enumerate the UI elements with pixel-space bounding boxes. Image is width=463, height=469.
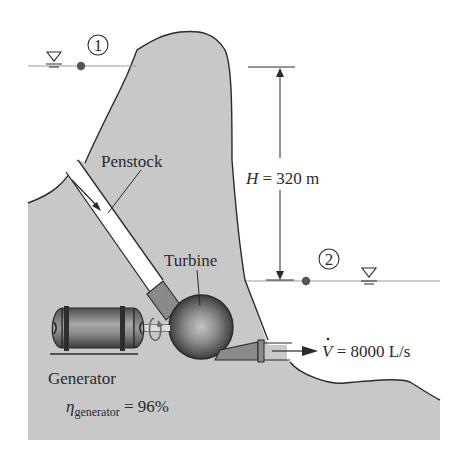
point-2-marker	[302, 277, 310, 285]
generator-label: Generator	[48, 369, 116, 388]
flow-dot-accent	[327, 338, 330, 341]
point-1-marker	[77, 62, 85, 70]
hydro-plant-diagram: 1 2 H = 320 m Penstock Turbine	[0, 0, 463, 469]
water-level-icon-upper	[46, 52, 62, 67]
svg-text:1: 1	[94, 36, 103, 55]
penstock-label: Penstock	[101, 152, 163, 171]
flow-rate-label: V = 8000 L/s	[322, 342, 410, 361]
point-2-label: 2	[319, 249, 339, 269]
turbine-label: Turbine	[164, 251, 217, 270]
generator	[50, 306, 144, 354]
point-1-label: 1	[88, 35, 108, 55]
head-label: H = 320 m	[245, 169, 319, 188]
svg-text:2: 2	[325, 250, 334, 269]
